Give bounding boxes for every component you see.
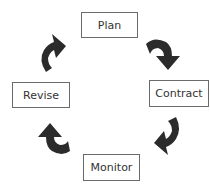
- node-monitor-label: Monitor: [91, 161, 133, 174]
- curved-arrow-icon-monitor-to-revise: [34, 121, 72, 157]
- node-monitor: Monitor: [83, 154, 140, 181]
- curved-arrow-icon-revise-to-plan: [38, 32, 68, 74]
- curved-arrow-icon-plan-to-contract: [144, 36, 184, 74]
- node-revise: Revise: [12, 82, 70, 108]
- node-plan-label: Plan: [98, 19, 121, 32]
- node-contract-label: Contract: [155, 87, 202, 100]
- node-revise-label: Revise: [23, 89, 59, 102]
- curved-arrow-icon-contract-to-monitor: [152, 115, 184, 157]
- node-plan: Plan: [81, 12, 138, 38]
- node-contract: Contract: [149, 80, 209, 107]
